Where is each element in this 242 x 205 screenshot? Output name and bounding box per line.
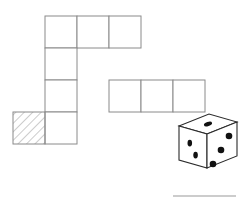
figure-canvas <box>0 0 242 205</box>
die-pip-left-2 <box>193 152 198 159</box>
cell-r3cm1 <box>13 112 45 144</box>
cell-r0c1 <box>77 16 109 48</box>
cell-r0c0 <box>45 16 77 48</box>
cell-r3c0 <box>45 112 77 144</box>
die-pip-right-2 <box>218 147 225 154</box>
die-pip-right-1 <box>210 161 217 168</box>
cell-r2c4 <box>173 80 205 112</box>
cell-r2c0 <box>45 80 77 112</box>
cell-r2c3 <box>141 80 173 112</box>
die-layer <box>179 114 237 168</box>
die-pip-left-1 <box>187 140 192 147</box>
die-pip-right-3 <box>226 133 233 140</box>
cell-r2c2 <box>109 80 141 112</box>
net-cells-layer <box>13 16 205 144</box>
cell-r1c0 <box>45 48 77 80</box>
cube-net-diagram <box>0 0 242 205</box>
cell-r0c2 <box>109 16 141 48</box>
die-face-left <box>179 126 207 168</box>
